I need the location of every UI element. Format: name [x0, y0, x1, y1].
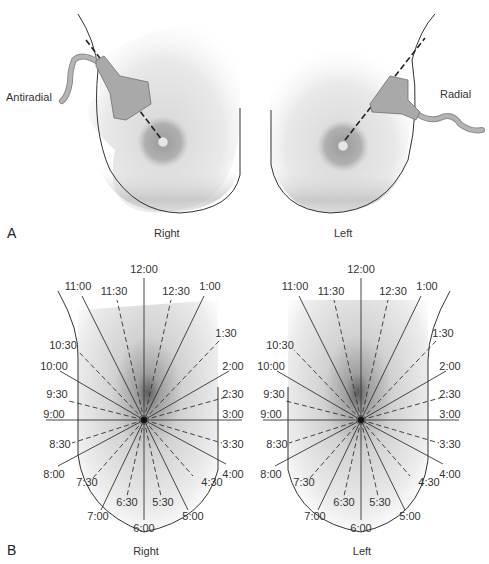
clock-4-00: 4:00	[439, 468, 460, 480]
clock-9-30: 9:30	[263, 388, 284, 400]
clock-5-30: 5:30	[369, 496, 390, 508]
clock-11-00: 11:00	[65, 280, 92, 292]
clock-8-30: 8:30	[49, 438, 70, 450]
clock-2-30: 2:30	[439, 388, 460, 400]
clock-7-00: 7:00	[87, 510, 108, 522]
clock-1-00: 1:00	[199, 280, 220, 292]
clock-12-30: 12:30	[162, 285, 190, 297]
clock-5-30: 5:30	[152, 496, 173, 508]
clock-12-00: 12:00	[130, 263, 158, 275]
panel-a-left-caption: Left	[334, 227, 352, 239]
nipple-center	[141, 417, 147, 423]
clock-10-00: 10:00	[40, 360, 68, 372]
panel-a-right-caption: Right	[154, 227, 180, 239]
panel-a: Antiradial Right Radial Left A	[6, 14, 482, 241]
clock-6-30: 6:30	[333, 496, 354, 508]
clock-9-00: 9:00	[260, 408, 281, 420]
clock-8-00: 8:00	[260, 468, 281, 480]
clock-1-30: 1:30	[215, 327, 236, 339]
clock-6-00: 6:00	[350, 522, 371, 534]
clock-4-00: 4:00	[222, 468, 243, 480]
clock-10-00: 10:00	[257, 360, 285, 372]
clock-5-00: 5:00	[182, 510, 203, 522]
clock-7-30: 7:30	[76, 476, 97, 488]
clock-2-30: 2:30	[222, 388, 243, 400]
panel-b-left-clock: 12:00 12:30 1:00 1:30 2:00 2:30 3:00 3:3…	[257, 263, 460, 557]
panel-a-letter: A	[7, 225, 17, 241]
clock-3-00: 3:00	[222, 408, 243, 420]
clock-6-30: 6:30	[116, 496, 137, 508]
panel-b-right-clock: 12:00 12:30 1:00 1:30 2:00 2:30 3:00 3:3…	[40, 263, 243, 557]
clock-3-30: 3:30	[222, 438, 243, 450]
breast-ultrasound-diagram: Antiradial Right Radial Left A	[0, 0, 489, 564]
nipple-center	[358, 417, 364, 423]
clock-4-30: 4:30	[201, 476, 222, 488]
panel-a-left-breast: Radial Left	[270, 14, 482, 239]
nipple	[338, 141, 348, 151]
clock-2-00: 2:00	[439, 360, 460, 372]
antiradial-label: Antiradial	[6, 91, 52, 103]
clock-8-30: 8:30	[266, 438, 287, 450]
panel-b-left-caption: Left	[353, 545, 371, 557]
clock-1-00: 1:00	[416, 280, 437, 292]
panel-b-letter: B	[7, 542, 16, 558]
clock-9-00: 9:00	[43, 408, 64, 420]
panel-a-right-breast: Antiradial Right	[6, 14, 240, 239]
clock-10-30: 10:30	[266, 339, 294, 351]
clock-7-30: 7:30	[293, 476, 314, 488]
radial-label: Radial	[440, 88, 471, 100]
clock-12-30: 12:30	[379, 285, 407, 297]
clock-4-30: 4:30	[418, 476, 439, 488]
clock-9-30: 9:30	[46, 388, 67, 400]
clock-2-00: 2:00	[222, 360, 243, 372]
clock-11-00: 11:00	[282, 280, 309, 292]
clock-8-00: 8:00	[43, 468, 64, 480]
clock-1-30: 1:30	[432, 327, 453, 339]
nipple	[158, 137, 168, 147]
panel-b-right-caption: Right	[133, 545, 159, 557]
clock-7-00: 7:00	[304, 510, 325, 522]
clock-3-30: 3:30	[439, 438, 460, 450]
clock-5-00: 5:00	[399, 510, 420, 522]
clock-11-30: 11:30	[318, 285, 345, 297]
clock-11-30: 11:30	[101, 285, 128, 297]
clock-12-00: 12:00	[347, 263, 375, 275]
clock-3-00: 3:00	[439, 408, 460, 420]
clock-10-30: 10:30	[49, 339, 77, 351]
clock-6-00: 6:00	[133, 522, 154, 534]
